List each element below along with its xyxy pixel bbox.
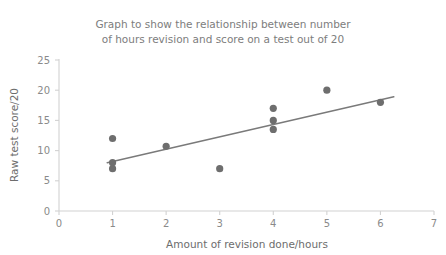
y-tick-label: 0 bbox=[44, 206, 50, 217]
x-tick-label: 4 bbox=[270, 218, 276, 229]
data-point bbox=[323, 87, 330, 94]
x-tick-label: 7 bbox=[431, 218, 437, 229]
data-point bbox=[216, 165, 223, 172]
x-tick-label: 3 bbox=[217, 218, 223, 229]
y-axis: 0510152025 bbox=[37, 55, 59, 217]
x-tick-label: 5 bbox=[324, 218, 330, 229]
chart-title-line-2: of hours revision and score on a test ou… bbox=[102, 33, 344, 45]
data-point bbox=[270, 117, 277, 124]
data-point bbox=[270, 126, 277, 133]
data-point bbox=[377, 99, 384, 106]
data-point bbox=[270, 105, 277, 112]
chart-title-line-1: Graph to show the relationship between n… bbox=[95, 18, 351, 30]
data-points-group bbox=[109, 87, 384, 173]
y-tick-label: 20 bbox=[37, 85, 50, 96]
y-tick-label: 25 bbox=[37, 55, 50, 66]
x-axis: 01234567 bbox=[56, 211, 437, 229]
y-axis-title: Raw test score/20 bbox=[8, 88, 20, 182]
trend-line-group bbox=[107, 97, 394, 163]
trend-line bbox=[107, 97, 394, 163]
chart-container: Graph to show the relationship between n… bbox=[0, 0, 446, 255]
x-tick-label: 2 bbox=[163, 218, 169, 229]
data-point bbox=[109, 135, 116, 142]
data-point bbox=[109, 165, 116, 172]
x-tick-label: 1 bbox=[109, 218, 115, 229]
y-tick-label: 10 bbox=[37, 145, 50, 156]
x-axis-title: Amount of revision done/hours bbox=[166, 238, 328, 250]
y-tick-label: 5 bbox=[44, 175, 50, 186]
x-tick-label: 6 bbox=[377, 218, 383, 229]
x-tick-label: 0 bbox=[56, 218, 62, 229]
data-point bbox=[163, 143, 170, 150]
y-tick-label: 15 bbox=[37, 115, 50, 126]
scatter-plot: Graph to show the relationship between n… bbox=[0, 0, 446, 255]
